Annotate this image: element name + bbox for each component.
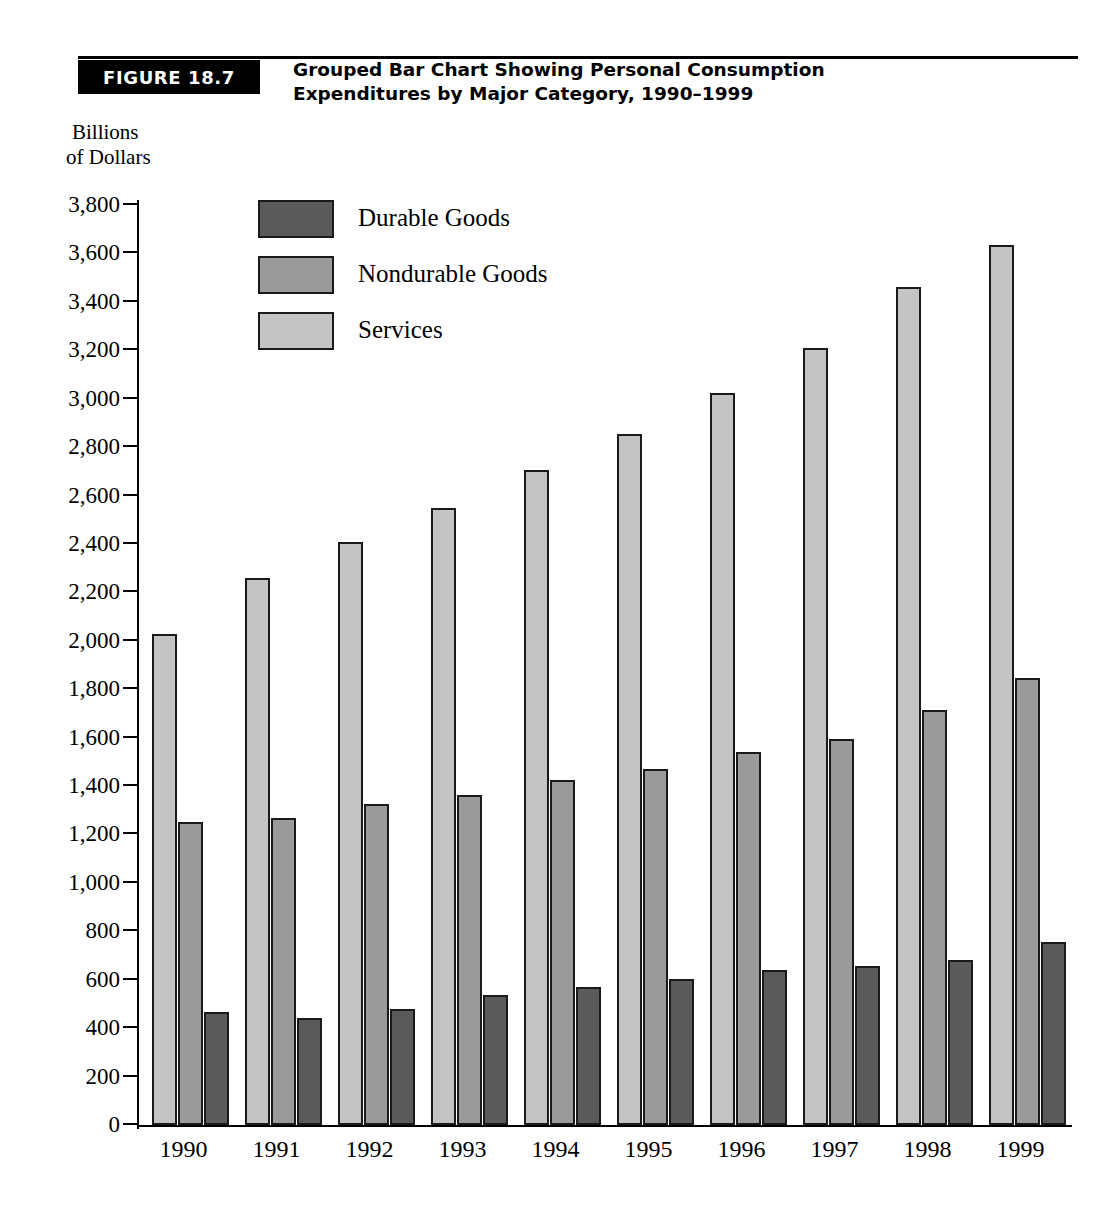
y-axis-tick-label: 200 xyxy=(0,1065,120,1088)
bar xyxy=(922,710,947,1125)
bar xyxy=(152,634,177,1125)
bar xyxy=(457,795,482,1125)
bar xyxy=(178,822,203,1125)
legend-item: Nondurable Goods xyxy=(258,254,618,310)
bar xyxy=(669,979,694,1125)
y-axis-caption: Billions of Dollars xyxy=(72,120,151,170)
y-axis-tick-label: 2,600 xyxy=(0,484,120,507)
y-axis-tick-label: 2,200 xyxy=(0,580,120,603)
y-axis-tick-label: 3,000 xyxy=(0,387,120,410)
y-axis-tick xyxy=(123,590,137,592)
y-axis-tick-label: 1,600 xyxy=(0,726,120,749)
x-axis-tick-label: 1995 xyxy=(602,1136,695,1163)
y-axis-tick xyxy=(123,881,137,883)
bar xyxy=(576,987,601,1125)
y-axis-tick xyxy=(123,251,137,253)
y-axis-tick xyxy=(123,978,137,980)
bar xyxy=(550,780,575,1125)
legend-label: Services xyxy=(358,313,443,347)
bar xyxy=(896,287,921,1125)
bar xyxy=(1041,942,1066,1125)
x-axis-tick-label: 1994 xyxy=(509,1136,602,1163)
bar xyxy=(204,1012,229,1125)
figure-title: Grouped Bar Chart Showing Personal Consu… xyxy=(293,58,1053,106)
bar xyxy=(338,542,363,1125)
legend-swatch xyxy=(258,200,334,238)
x-axis-tick-label: 1993 xyxy=(416,1136,509,1163)
bar xyxy=(297,1018,322,1125)
legend-label: Nondurable Goods xyxy=(358,257,548,291)
bar xyxy=(483,995,508,1125)
y-axis-tick-label: 3,800 xyxy=(0,193,120,216)
bar xyxy=(736,752,761,1125)
legend-swatch xyxy=(258,312,334,350)
y-axis-tick-label: 800 xyxy=(0,919,120,942)
bar-group xyxy=(974,205,1067,1125)
x-axis-tick-label: 1997 xyxy=(788,1136,881,1163)
bar xyxy=(643,769,668,1125)
bar-group xyxy=(695,205,788,1125)
y-axis-tick xyxy=(123,736,137,738)
y-axis-tick xyxy=(123,639,137,641)
x-axis-tick-label: 1999 xyxy=(974,1136,1067,1163)
y-axis-tick xyxy=(123,445,137,447)
y-axis-caption-line-2: of Dollars xyxy=(66,145,151,170)
y-axis-tick xyxy=(123,494,137,496)
x-axis-tick-label: 1992 xyxy=(323,1136,416,1163)
y-axis-tick-label: 2,400 xyxy=(0,532,120,555)
figure-title-line-1: Grouped Bar Chart Showing Personal Consu… xyxy=(293,59,825,80)
legend-swatch xyxy=(258,256,334,294)
y-axis-tick xyxy=(123,1075,137,1077)
y-axis-tick-label: 1,200 xyxy=(0,822,120,845)
bar xyxy=(617,434,642,1125)
y-axis-tick-label: 600 xyxy=(0,968,120,991)
legend-item: Durable Goods xyxy=(258,198,618,254)
y-axis-tick xyxy=(123,784,137,786)
bar-group xyxy=(137,205,230,1125)
bar-group xyxy=(881,205,974,1125)
bar xyxy=(762,970,787,1125)
y-axis-tick xyxy=(123,687,137,689)
legend-item: Services xyxy=(258,310,618,366)
y-axis-tick xyxy=(123,397,137,399)
y-axis-tick-label: 1,800 xyxy=(0,677,120,700)
y-axis-tick-label: 3,600 xyxy=(0,241,120,264)
y-axis-tick xyxy=(123,300,137,302)
y-axis-tick xyxy=(123,929,137,931)
x-axis-tick-label: 1998 xyxy=(881,1136,974,1163)
y-axis-tick-label: 2,800 xyxy=(0,435,120,458)
x-axis-tick-label: 1990 xyxy=(137,1136,230,1163)
y-axis-tick-label: 1,400 xyxy=(0,774,120,797)
bar xyxy=(364,804,389,1125)
y-axis-tick xyxy=(123,1123,137,1125)
y-axis-tick-label: 3,200 xyxy=(0,338,120,361)
bar xyxy=(948,960,973,1125)
y-axis-tick-labels: 02004006008001,0001,2001,4001,6001,8002,… xyxy=(0,205,120,1125)
y-axis-tick-label: 3,400 xyxy=(0,290,120,313)
bar xyxy=(829,739,854,1125)
figure-number-badge: FIGURE 18.7 xyxy=(78,60,260,94)
chart-legend: Durable GoodsNondurable GoodsServices xyxy=(258,198,618,366)
y-axis-tick xyxy=(123,1026,137,1028)
y-axis-tick xyxy=(123,203,137,205)
bar xyxy=(390,1009,415,1125)
y-axis-tick-label: 400 xyxy=(0,1016,120,1039)
y-axis-tick xyxy=(123,832,137,834)
x-axis-tick-labels: 1990199119921993199419951996199719981999 xyxy=(137,1136,1067,1176)
bar-group xyxy=(788,205,881,1125)
bar xyxy=(245,578,270,1125)
bar xyxy=(271,818,296,1125)
y-axis-tick xyxy=(123,348,137,350)
y-axis-caption-line-1: Billions xyxy=(72,120,151,145)
bar xyxy=(803,348,828,1125)
figure-title-line-2: Expenditures by Major Category, 1990–199… xyxy=(293,82,1053,106)
bar xyxy=(710,393,735,1125)
bar xyxy=(1015,678,1040,1125)
bar xyxy=(989,245,1014,1125)
y-axis-tick-label: 2,000 xyxy=(0,629,120,652)
bar xyxy=(524,470,549,1125)
bar xyxy=(431,508,456,1125)
y-axis-tick-label: 0 xyxy=(0,1113,120,1136)
x-axis-line xyxy=(137,1125,1072,1127)
y-axis-tick xyxy=(123,542,137,544)
